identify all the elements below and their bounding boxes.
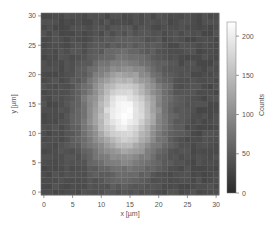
- heatmap-cell: [64, 72, 70, 78]
- heatmap-cell: [139, 31, 145, 37]
- heatmap-cell: [64, 13, 70, 19]
- heatmap-cell: [93, 60, 99, 66]
- heatmap-cell: [98, 36, 104, 42]
- heatmap-cell: [127, 95, 133, 101]
- heatmap-cell: [58, 89, 64, 95]
- heatmap-cell: [179, 142, 185, 148]
- heatmap-cell: [179, 113, 185, 119]
- heatmap-cell: [190, 42, 196, 48]
- heatmap-cell: [208, 36, 214, 42]
- heatmap-cell: [93, 48, 99, 54]
- heatmap-cell: [196, 48, 202, 54]
- heatmap-cell: [104, 36, 110, 42]
- heatmap-cell: [156, 89, 162, 95]
- heatmap-cell: [173, 78, 179, 84]
- heatmap-cell: [196, 25, 202, 31]
- heatmap-cell: [179, 177, 185, 183]
- heatmap-cell: [116, 83, 122, 89]
- heatmap-cell: [167, 78, 173, 84]
- heatmap-cell: [98, 119, 104, 125]
- heatmap-cell: [104, 107, 110, 113]
- heatmap-cell: [167, 166, 173, 172]
- heatmap-cell: [81, 113, 87, 119]
- heatmap-cell: [75, 25, 81, 31]
- heatmap-cell: [81, 25, 87, 31]
- heatmap-cell: [144, 148, 150, 154]
- heatmap-cell: [70, 136, 76, 142]
- heatmap-cell: [202, 13, 208, 19]
- heatmap-cell: [52, 89, 58, 95]
- heatmap-cell: [58, 125, 64, 131]
- heatmap-cell: [127, 25, 133, 31]
- heatmap-cell: [144, 119, 150, 125]
- heatmap-cell: [75, 113, 81, 119]
- heatmap-cell: [156, 66, 162, 72]
- heatmap-cell: [167, 72, 173, 78]
- heatmap-cell: [208, 107, 214, 113]
- heatmap-cell: [213, 166, 219, 172]
- heatmap-cell: [104, 89, 110, 95]
- heatmap-cell: [58, 54, 64, 60]
- heatmap-cell: [133, 177, 139, 183]
- heatmap-cell: [98, 189, 104, 195]
- heatmap-cell: [41, 25, 47, 31]
- heatmap-cell: [58, 60, 64, 66]
- heatmap-cell: [202, 166, 208, 172]
- heatmap-cell: [190, 60, 196, 66]
- heatmap-cell: [58, 189, 64, 195]
- heatmap-cell: [98, 72, 104, 78]
- heatmap-cell: [156, 19, 162, 25]
- heatmap-cell: [75, 142, 81, 148]
- x-axis-label: x [µm]: [120, 210, 139, 218]
- heatmap-cell: [116, 130, 122, 136]
- heatmap-cell: [127, 72, 133, 78]
- heatmap-cell: [70, 189, 76, 195]
- heatmap-cell: [104, 142, 110, 148]
- heatmap-cell: [185, 183, 191, 189]
- heatmap-cell: [173, 166, 179, 172]
- heatmap-cell: [93, 130, 99, 136]
- heatmap-cell: [150, 166, 156, 172]
- heatmap-cell: [150, 72, 156, 78]
- heatmap-cell: [139, 66, 145, 72]
- heatmap-cell: [139, 172, 145, 178]
- heatmap-cell: [156, 166, 162, 172]
- heatmap-cell: [52, 125, 58, 131]
- heatmap-cell: [98, 25, 104, 31]
- heatmap-cell: [116, 119, 122, 125]
- heatmap-cell: [144, 31, 150, 37]
- heatmap-cell: [52, 60, 58, 66]
- heatmap-cell: [156, 177, 162, 183]
- heatmap-cell: [93, 125, 99, 131]
- heatmap-cell: [144, 95, 150, 101]
- heatmap-cell: [133, 66, 139, 72]
- heatmap-cell: [104, 25, 110, 31]
- heatmap-cell: [110, 107, 116, 113]
- heatmap-cell: [75, 48, 81, 54]
- heatmap-cell: [93, 31, 99, 37]
- heatmap-cell: [190, 36, 196, 42]
- heatmap-cell: [41, 42, 47, 48]
- heatmap-cell: [190, 113, 196, 119]
- heatmap-cell: [202, 101, 208, 107]
- heatmap-cell: [213, 154, 219, 160]
- heatmap-cell: [144, 48, 150, 54]
- heatmap-cell: [179, 66, 185, 72]
- heatmap-cell: [121, 172, 127, 178]
- heatmap-cell: [47, 95, 53, 101]
- heatmap-cell: [47, 25, 53, 31]
- heatmap-cell: [208, 142, 214, 148]
- heatmap-cell: [64, 172, 70, 178]
- heatmap-cell: [58, 160, 64, 166]
- heatmap-cell: [93, 72, 99, 78]
- heatmap-cell: [52, 119, 58, 125]
- heatmap-cell: [185, 113, 191, 119]
- x-tick-label: 25: [184, 201, 192, 208]
- heatmap-cell: [162, 36, 168, 42]
- heatmap-cell: [167, 89, 173, 95]
- heatmap-cell: [173, 142, 179, 148]
- heatmap-cell: [64, 60, 70, 66]
- heatmap-cell: [70, 183, 76, 189]
- heatmap-cell: [173, 13, 179, 19]
- heatmap-cell: [127, 154, 133, 160]
